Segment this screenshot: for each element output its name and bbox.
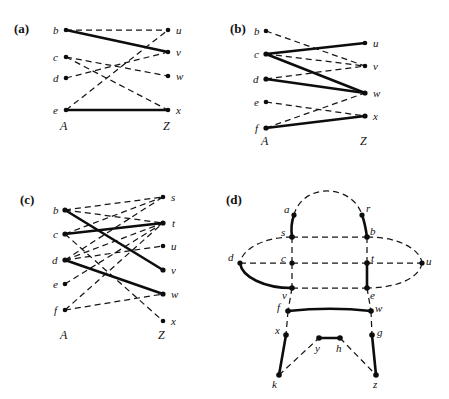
edge-b-v xyxy=(65,210,163,270)
vertex-v xyxy=(160,267,165,272)
edge-b-s xyxy=(65,197,163,210)
panel-a-graph: b c d e u v w x A Z xyxy=(0,0,224,175)
vertex-x xyxy=(161,319,166,324)
panel-c: (c) xyxy=(0,175,224,355)
label-b: b xyxy=(53,24,59,36)
vertex-x xyxy=(283,332,289,338)
panel-d-graph: a r s b d c t u v e f w x g y h k z xyxy=(224,175,449,399)
vertex-a xyxy=(291,212,296,217)
vertex-b xyxy=(264,29,269,34)
panel-d-label: (d) xyxy=(226,192,242,208)
panel-a: (a) b c d e u v w xyxy=(0,0,224,175)
label-u: u xyxy=(373,37,379,49)
label-t: t xyxy=(371,252,375,264)
label-c: c xyxy=(53,51,58,63)
edge-e-x xyxy=(266,102,365,116)
edge-x-k xyxy=(279,335,286,375)
label-w: w xyxy=(176,70,184,82)
vertex-e xyxy=(264,100,269,105)
vertex-r xyxy=(359,212,364,217)
edge-d-v xyxy=(240,263,292,288)
label-c: c xyxy=(53,228,58,240)
edge-d-v xyxy=(66,52,168,78)
vertex-v xyxy=(289,285,295,291)
vertex-s xyxy=(289,234,295,240)
vertex-v xyxy=(166,50,171,55)
vertex-e xyxy=(64,108,69,113)
label-x: x xyxy=(175,104,181,116)
vertex-x xyxy=(166,108,171,113)
label-y: y xyxy=(314,342,320,354)
label-e: e xyxy=(53,278,58,290)
label-set-A: A xyxy=(59,119,68,133)
label-c: c xyxy=(281,252,286,264)
label-f: f xyxy=(255,122,260,134)
vertex-d xyxy=(64,76,69,81)
edge-a-r xyxy=(294,191,362,215)
label-b: b xyxy=(370,225,376,237)
edge-d-u xyxy=(65,246,163,260)
vertex-f xyxy=(263,125,268,130)
label-v: v xyxy=(171,264,176,276)
figure-canvas: (a) b c d e u v w xyxy=(0,0,449,399)
vertex-k xyxy=(276,372,282,378)
label-w: w xyxy=(171,288,179,300)
label-set-A: A xyxy=(59,328,68,342)
vertex-b xyxy=(62,207,67,212)
label-s: s xyxy=(171,191,175,203)
vertex-b xyxy=(64,28,69,33)
vertex-s xyxy=(161,195,166,200)
label-r: r xyxy=(366,202,371,214)
label-d: d xyxy=(228,251,234,263)
label-f: f xyxy=(54,304,59,316)
vertex-x xyxy=(362,113,367,118)
label-x: x xyxy=(170,315,176,327)
vertex-w xyxy=(166,74,171,79)
label-x: x xyxy=(372,110,378,122)
label-h: h xyxy=(336,342,342,354)
vertex-d xyxy=(237,260,242,265)
label-w: w xyxy=(373,87,381,99)
vertex-e xyxy=(364,285,370,291)
vertex-t xyxy=(364,260,370,266)
vertex-t xyxy=(160,220,165,225)
label-d: d xyxy=(53,72,59,84)
label-set-Z: Z xyxy=(163,119,170,133)
vertex-d xyxy=(62,257,67,262)
vertex-f xyxy=(285,308,291,314)
edge-c-u xyxy=(266,43,365,54)
label-f: f xyxy=(277,301,282,313)
label-u: u xyxy=(171,240,177,252)
vertex-e xyxy=(63,282,68,287)
label-c: c xyxy=(254,48,259,60)
edge-h-z xyxy=(340,338,376,375)
vertex-d xyxy=(263,76,268,81)
edge-a-s xyxy=(291,215,294,237)
vertex-y xyxy=(316,335,322,341)
vertex-c xyxy=(263,51,268,56)
vertex-h xyxy=(337,335,343,341)
panel-a-label: (a) xyxy=(14,21,29,37)
label-u: u xyxy=(426,255,432,267)
label-t: t xyxy=(172,217,176,229)
label-v: v xyxy=(282,289,287,301)
vertex-w xyxy=(368,308,374,314)
label-e: e xyxy=(254,96,259,108)
vertex-u xyxy=(419,260,424,265)
edge-b-u xyxy=(367,237,422,263)
vertex-c xyxy=(64,55,69,60)
panel-d: (d) xyxy=(224,175,449,399)
label-b: b xyxy=(53,204,59,216)
label-v: v xyxy=(176,46,181,58)
label-s: s xyxy=(281,226,285,238)
label-v: v xyxy=(373,60,378,72)
label-k: k xyxy=(272,378,278,390)
vertex-c xyxy=(62,231,67,236)
label-e: e xyxy=(53,104,58,116)
vertex-u xyxy=(161,244,166,249)
vertex-w xyxy=(160,291,165,296)
label-set-Z: Z xyxy=(158,328,165,342)
edge-c-w xyxy=(66,57,168,76)
edge-v-f xyxy=(288,288,292,311)
label-w: w xyxy=(375,302,383,314)
